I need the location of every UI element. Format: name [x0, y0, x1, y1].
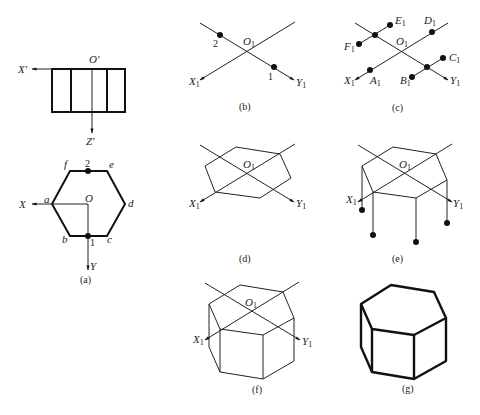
- label-A: A1: [369, 74, 381, 88]
- y1-label: Y1: [302, 335, 312, 349]
- panel-g: (g): [361, 285, 446, 395]
- vertex-e: e: [109, 158, 114, 170]
- o1-label: O1: [243, 158, 255, 172]
- point-1-label: 1: [90, 237, 95, 248]
- point-F: [356, 41, 362, 47]
- point-2: [372, 32, 378, 38]
- x1-label: X1: [343, 74, 355, 88]
- x1-axis: [200, 144, 295, 202]
- bottom-edge-bc: [263, 361, 294, 379]
- vertex-a: a: [44, 193, 50, 205]
- label-C: C1: [449, 51, 460, 65]
- vertex-f: f: [64, 158, 69, 170]
- x1-label: X1: [192, 333, 204, 347]
- point-2-label: 2: [85, 158, 90, 169]
- point-1: [424, 64, 430, 70]
- caption-c: (c): [392, 102, 403, 114]
- caption-f: (f): [252, 384, 262, 396]
- panel-b: 2 1 O1 X1 Y1 (b): [188, 22, 306, 113]
- panel-a: X' O' Z' X Y O a b c d e f 2 1 (a): [17, 53, 134, 286]
- point-2-label: 2: [213, 38, 218, 49]
- caption-d: (d): [239, 253, 251, 265]
- y1-label: Y1: [296, 197, 306, 211]
- panel-f: O1 X1 Y1 (f): [192, 282, 312, 396]
- o1-label: O1: [245, 296, 257, 310]
- x1-label: X1: [188, 197, 200, 211]
- panel-d: O1 X1 Y1 (d): [188, 144, 306, 265]
- bottom-point-1: [359, 207, 365, 213]
- label-B: B1: [400, 74, 411, 88]
- point-D: [429, 29, 435, 35]
- point-1-label: 1: [268, 71, 273, 82]
- vertex-c: c: [107, 233, 112, 245]
- bottom-edge-ab: [220, 372, 263, 379]
- o1-label: O1: [399, 158, 411, 172]
- label-E: E1: [394, 14, 406, 28]
- caption-g: (g): [402, 383, 414, 395]
- z-prime-label: Z': [86, 135, 95, 147]
- x1-label: X1: [188, 75, 200, 89]
- panel-e: O1 X1 Y1 (e): [345, 144, 463, 265]
- o1-label: O1: [243, 35, 255, 49]
- x-prime-label: X': [17, 63, 28, 75]
- point-C: [440, 55, 446, 61]
- o-label: O: [85, 192, 93, 204]
- top-view: X Y O a b c d e f 2 1: [18, 158, 134, 272]
- y1-label: Y1: [296, 76, 306, 90]
- vertex-b: b: [62, 233, 68, 245]
- y1-label: Y1: [453, 197, 463, 211]
- prism-outline-bottom: [361, 304, 446, 379]
- x1-label: X1: [345, 193, 357, 207]
- label-D: D1: [423, 14, 436, 28]
- x-label: X: [18, 198, 27, 210]
- point-A: [367, 67, 373, 73]
- vertex-d: d: [128, 197, 134, 209]
- bottom-point-3: [413, 239, 419, 245]
- bottom-point-2: [370, 232, 376, 238]
- y1-label: Y1: [450, 74, 460, 88]
- point-1: [271, 64, 277, 70]
- caption-b: (b): [239, 101, 251, 113]
- o-prime-label: O': [89, 53, 100, 65]
- bottom-point-4: [444, 220, 450, 226]
- o1-label: O1: [396, 35, 408, 49]
- label-F: F1: [343, 40, 355, 54]
- caption-a: (a): [80, 274, 91, 286]
- point-E: [387, 22, 393, 28]
- y-label: Y: [90, 260, 98, 272]
- hexagonal-prism-isometric-diagram: X' O' Z' X Y O a b c d e f 2 1 (a): [0, 0, 480, 415]
- x1-axis: [200, 22, 295, 80]
- front-view-rect: [52, 69, 125, 112]
- front-view: X' O' Z': [17, 53, 125, 147]
- bottom-edge-fa: [209, 347, 220, 372]
- hexagon-top-face: [361, 285, 446, 335]
- caption-e: (e): [392, 253, 403, 265]
- panel-c: E1 F1 D1 C1 B1 A1 O1 X1 Y1 (c): [343, 14, 460, 114]
